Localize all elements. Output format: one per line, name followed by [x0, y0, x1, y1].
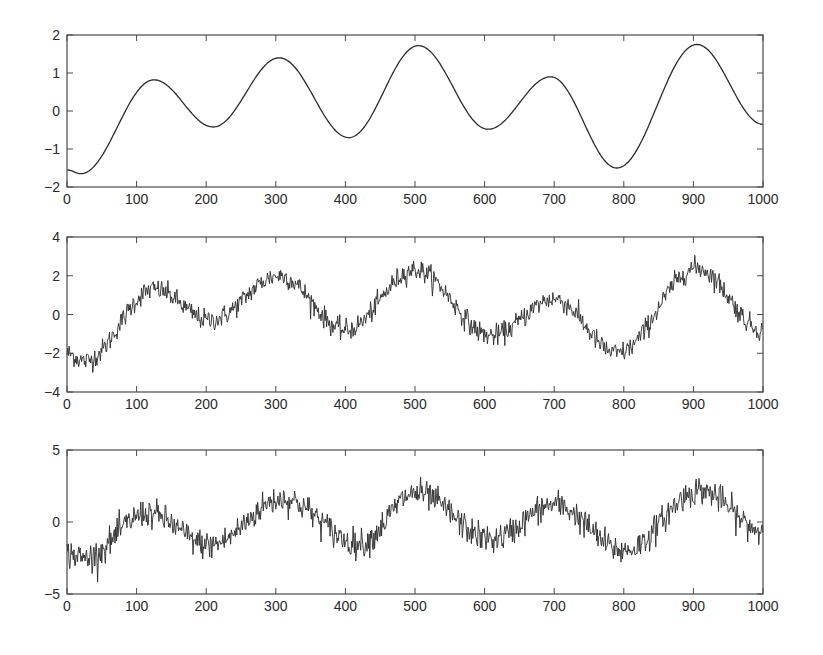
figure-canvas: 01002003004005006007008009001000−2−1012 …	[0, 0, 823, 655]
data-line	[67, 477, 763, 582]
x-tick-label: 800	[612, 191, 636, 207]
x-tick-label: 400	[334, 598, 358, 614]
x-tick-label: 800	[612, 396, 636, 412]
x-tick-label: 300	[264, 396, 288, 412]
x-tick-label: 400	[334, 396, 358, 412]
x-tick-label: 0	[63, 598, 71, 614]
x-tick-label: 500	[403, 396, 427, 412]
y-tick-label: 0	[52, 514, 60, 530]
x-tick-label: 800	[612, 598, 636, 614]
x-tick-label: 600	[473, 598, 497, 614]
x-tick-label: 900	[682, 396, 706, 412]
y-tick-label: 2	[52, 268, 60, 284]
x-tick-label: 500	[403, 191, 427, 207]
axes-frame	[67, 35, 763, 187]
x-tick-label: 0	[63, 191, 71, 207]
x-tick-label: 600	[473, 191, 497, 207]
x-tick-label: 400	[334, 191, 358, 207]
y-tick-label: 0	[52, 103, 60, 119]
x-tick-label: 700	[543, 191, 567, 207]
panel-moderate-noise: 01002003004005006007008009001000−4−2024	[44, 229, 779, 412]
x-tick-label: 100	[125, 396, 149, 412]
panel-smooth-signal: 01002003004005006007008009001000−2−1012	[44, 27, 779, 207]
panel-strong-noise: 01002003004005006007008009001000−505	[44, 442, 779, 614]
y-tick-label: −2	[44, 345, 60, 361]
data-line	[67, 45, 763, 174]
y-tick-label: −1	[44, 141, 60, 157]
y-tick-label: 2	[52, 27, 60, 43]
axes-frame	[67, 237, 763, 392]
x-tick-label: 300	[264, 191, 288, 207]
data-line	[67, 255, 763, 372]
y-tick-label: 1	[52, 65, 60, 81]
x-tick-label: 1000	[747, 191, 778, 207]
x-tick-label: 200	[195, 191, 219, 207]
x-tick-label: 700	[543, 598, 567, 614]
y-tick-label: −4	[44, 384, 60, 400]
x-tick-label: 1000	[747, 396, 778, 412]
y-tick-label: 5	[52, 442, 60, 458]
x-tick-label: 100	[125, 598, 149, 614]
y-tick-label: −5	[44, 586, 60, 602]
x-tick-label: 0	[63, 396, 71, 412]
x-tick-label: 200	[195, 396, 219, 412]
x-tick-label: 1000	[747, 598, 778, 614]
x-tick-label: 700	[543, 396, 567, 412]
x-tick-label: 600	[473, 396, 497, 412]
y-tick-label: 0	[52, 307, 60, 323]
x-tick-label: 900	[682, 598, 706, 614]
x-tick-label: 200	[195, 598, 219, 614]
y-tick-label: 4	[52, 229, 60, 245]
y-tick-label: −2	[44, 179, 60, 195]
x-tick-label: 100	[125, 191, 149, 207]
x-tick-label: 900	[682, 191, 706, 207]
x-tick-label: 300	[264, 598, 288, 614]
x-tick-label: 500	[403, 598, 427, 614]
